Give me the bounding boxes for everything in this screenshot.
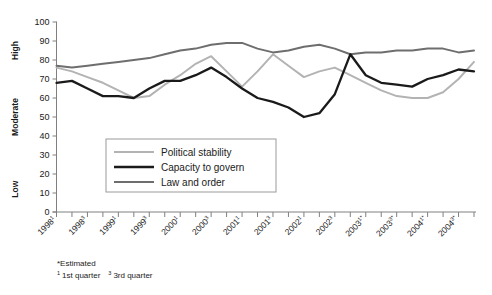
x-axis-tick-label: 19993	[128, 214, 151, 237]
y-category-label: High	[10, 41, 20, 60]
x-axis-tick-label: 19981	[35, 214, 58, 237]
x-axis-tick-label: 20001	[159, 214, 182, 237]
x-axis-tick-label: 20021	[283, 214, 306, 237]
y-axis: 0102030405060708090100	[34, 17, 56, 217]
y-axis-tick-label: 10	[39, 188, 49, 198]
x-axis-tick-label: 19991	[97, 214, 120, 237]
x-axis-tick-label: 20003	[190, 214, 213, 237]
y-axis-tick-label: 80	[39, 55, 49, 65]
x-axis-tick-label: 20023	[313, 214, 336, 237]
line-chart: 0102030405060708090100 HighModerateLow 1…	[0, 0, 492, 295]
chart-legend: Political stabilityCapacity to governLaw…	[106, 139, 276, 192]
x-axis-tick-label: 20031*	[343, 214, 368, 239]
legend-label: Political stability	[161, 147, 232, 158]
x-axis-tick-label: 20043*	[436, 214, 461, 239]
x-axis-tick-label: 20041*	[405, 214, 430, 239]
x-axis-tick-label: 20013	[252, 214, 275, 237]
x-axis-tick-label: 20011	[221, 214, 244, 237]
y-axis-tick-label: 40	[39, 131, 49, 141]
y-axis-tick-label: 70	[39, 74, 49, 84]
footnote-estimated: *Estimated	[57, 259, 96, 268]
y-category-label: Moderate	[10, 98, 20, 136]
y-axis-tick-label: 60	[39, 93, 49, 103]
footnote-quarters: 11st quarter33rd quarter	[57, 270, 153, 280]
y-axis-tick-label: 50	[39, 112, 49, 122]
y-axis-tick-label: 90	[39, 36, 49, 46]
chart-footnotes: *Estimated11st quarter33rd quarter	[57, 259, 153, 280]
x-axis-labels: 1998119983199911999320001200032001120013…	[35, 214, 460, 239]
x-axis-tick-label: 19983	[66, 214, 89, 237]
y-category-labels: HighModerateLow	[10, 41, 20, 198]
y-axis-tick-label: 100	[34, 17, 49, 27]
legend-label: Capacity to govern	[161, 162, 244, 173]
y-category-label: Low	[10, 180, 20, 197]
chart-figure: 0102030405060708090100 HighModerateLow 1…	[0, 0, 492, 295]
x-axis-tick-label: 20033*	[374, 214, 399, 239]
y-axis-tick-label: 20	[39, 169, 49, 179]
y-axis-tick-label: 30	[39, 150, 49, 160]
legend-label: Law and order	[161, 177, 226, 188]
data-series	[57, 43, 475, 117]
